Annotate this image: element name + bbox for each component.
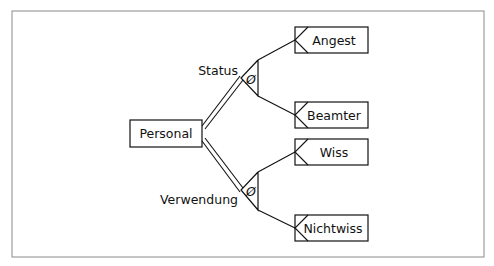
disjoint-symbol-status: Ø xyxy=(245,72,257,87)
entity-angest-label: Angest xyxy=(312,33,356,48)
entity-angest[interactable]: Angest xyxy=(295,27,368,53)
entity-beamter-label: Beamter xyxy=(307,108,362,123)
diagram-canvas: Personal Ø Status Ø Verwendung Angest Be… xyxy=(0,0,494,266)
connector-personal-verwendung xyxy=(202,138,243,192)
entity-wiss-label: Wiss xyxy=(320,145,349,160)
connector-personal-status xyxy=(202,76,243,129)
specialization-verwendung[interactable]: Ø xyxy=(241,172,258,210)
entity-personal-label: Personal xyxy=(139,126,192,141)
entity-personal[interactable]: Personal xyxy=(130,120,202,147)
entity-beamter[interactable]: Beamter xyxy=(295,102,368,128)
specialization-verwendung-label: Verwendung xyxy=(160,192,238,207)
child-connectors xyxy=(258,40,295,228)
specialization-status-label: Status xyxy=(198,63,238,78)
entity-nichtwiss-label: Nichtwiss xyxy=(303,221,362,236)
specialization-status[interactable]: Ø xyxy=(241,60,258,96)
entity-wiss[interactable]: Wiss xyxy=(295,139,368,165)
diagram-frame xyxy=(12,11,484,257)
entity-nichtwiss[interactable]: Nichtwiss xyxy=(295,215,368,241)
disjoint-symbol-verwendung: Ø xyxy=(245,184,257,199)
